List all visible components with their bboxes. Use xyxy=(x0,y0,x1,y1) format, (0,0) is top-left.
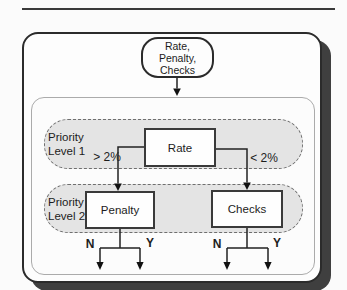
start-node-oval: Rate, Penalty, Checks xyxy=(141,37,214,78)
priority-level-1-label-line1: Priority xyxy=(48,130,104,144)
penalty-outcome-n: N xyxy=(82,237,98,251)
scanned-page: Rate, Penalty, Checks Priority Level 1 P… xyxy=(0,0,347,290)
penalty-outcome-y: Y xyxy=(142,236,158,250)
start-node-line3: Checks xyxy=(160,64,195,76)
condition-less-than-2pct: < 2% xyxy=(243,151,285,165)
condition-greater-than-2pct: > 2% xyxy=(86,150,128,164)
start-node-line2: Penalty, xyxy=(159,52,196,64)
checks-node: Checks xyxy=(211,190,283,228)
penalty-node: Penalty xyxy=(85,191,155,229)
start-node-line1: Rate, xyxy=(165,40,190,52)
checks-outcome-y: Y xyxy=(269,236,285,250)
rate-node: Rate xyxy=(144,128,216,167)
page-top-rule xyxy=(22,8,335,10)
checks-outcome-n: N xyxy=(209,237,225,251)
